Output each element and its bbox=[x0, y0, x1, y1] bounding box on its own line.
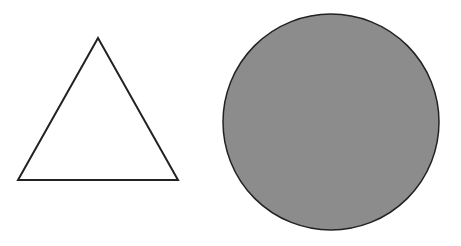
circle-shape bbox=[223, 14, 439, 230]
shapes-diagram bbox=[0, 0, 461, 246]
triangle-shape bbox=[18, 38, 178, 180]
